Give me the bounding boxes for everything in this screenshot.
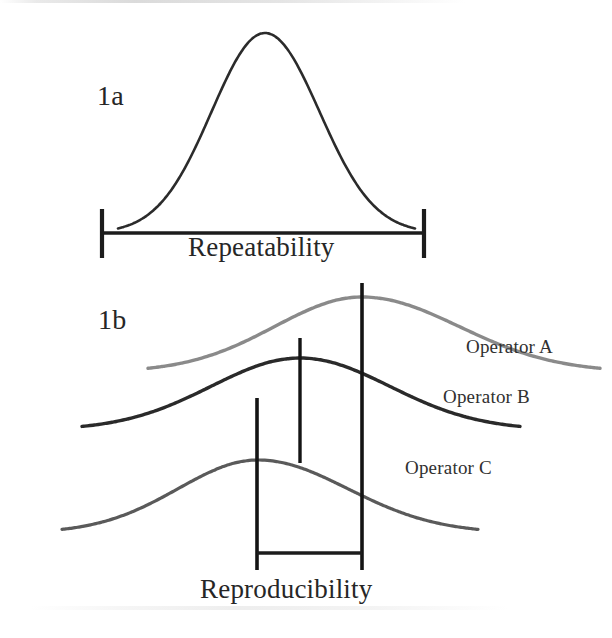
series-label-operator-c: Operator C (405, 458, 492, 477)
reproducibility-caption: Reproducibility (200, 576, 372, 603)
operator-a-curve (148, 297, 600, 368)
panel-tag-1b: 1b (98, 306, 126, 334)
repeatability-caption: Repeatability (188, 234, 335, 261)
series-label-operator-a: Operator A (466, 337, 553, 356)
figure-graphics (0, 0, 612, 638)
series-label-operator-b: Operator B (443, 387, 530, 406)
panel-1a-graphics (102, 33, 424, 258)
panel-1b-graphics (62, 283, 600, 570)
repeatability-curve (118, 33, 415, 228)
figure-canvas: 1a Repeatability 1b Operator A Operator … (0, 0, 612, 638)
panel-tag-1a: 1a (97, 82, 124, 110)
